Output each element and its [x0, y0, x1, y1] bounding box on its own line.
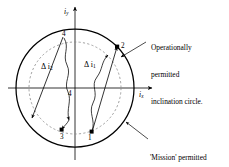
operational-line-2: permitted	[151, 70, 203, 79]
operational-line-1: Operationally	[151, 43, 203, 52]
inclination-circle-diagram: ix iy Δ i2 Δ i1 1 2 3 4 4 Operationally …	[0, 0, 229, 167]
y-axis-label: iy	[64, 7, 68, 16]
point-marker-1	[90, 130, 94, 134]
point-label-2: 2	[121, 42, 125, 51]
point-label-1: 1	[88, 134, 92, 143]
point-label-4: 4	[62, 30, 66, 39]
drift-trajectory-2	[64, 38, 69, 120]
point-label-3: 3	[60, 133, 64, 142]
delta-i1-label: Δ i1	[84, 60, 96, 70]
operational-annotation: Operationally permitted inclination circ…	[151, 25, 203, 124]
delta-i2-vector	[32, 37, 63, 118]
mission-leader-line	[126, 122, 148, 139]
operational-line-3: inclination circle.	[151, 97, 203, 106]
mission-line-1: 'Mission' permitted	[150, 153, 207, 162]
point-marker-3	[60, 128, 64, 132]
point-label-4b: 4	[68, 90, 72, 99]
point-marker-2	[115, 45, 119, 49]
delta-i2-label: Δ i2	[41, 62, 53, 72]
x-axis-label: ix	[139, 90, 143, 99]
mission-annotation: 'Mission' permitted inclination circle	[150, 135, 207, 167]
